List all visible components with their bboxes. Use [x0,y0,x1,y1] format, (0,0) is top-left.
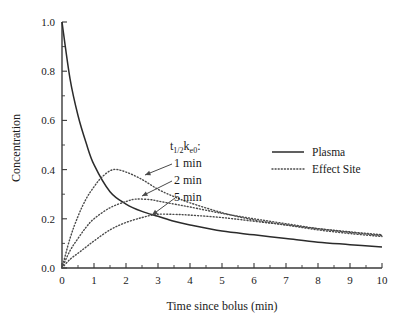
y-axis-title: Concentration [9,114,23,182]
x-tick-label: 4 [187,274,193,286]
y-tick-label: 0.6 [41,114,55,126]
x-tick-label: 10 [377,274,389,286]
annotation-label-3: 5 min [174,190,202,204]
x-tick-label: 6 [251,274,257,286]
x-tick-label: 5 [219,274,225,286]
x-tick-label: 8 [315,274,321,286]
x-tick-label: 0 [59,274,65,286]
chart-canvas: 0.00.20.40.60.81.0 012345678910 t1/2ke0:… [0,0,398,328]
y-tick-label: 1.0 [41,16,55,28]
x-tick-label: 3 [155,274,161,286]
x-tick-label: 2 [123,274,129,286]
x-axis-title: Time since bolus (min) [166,299,277,313]
y-tick-label: 0.4 [41,164,55,176]
y-tick-label: 0.8 [41,65,55,77]
legend-label-effect-site: Effect Site [312,163,361,175]
legend-label-plasma: Plasma [312,146,345,158]
x-tick-label: 7 [283,274,289,286]
annotation-label-2: 2 min [174,173,202,187]
annotation-label-1: 1 min [174,156,202,170]
y-tick-label: 0.2 [41,213,55,225]
x-tick-label: 9 [347,274,353,286]
y-tick-label: 0.0 [41,262,55,274]
concentration-time-chart: 0.00.20.40.60.81.0 012345678910 t1/2ke0:… [0,0,398,328]
x-tick-label: 1 [91,274,97,286]
